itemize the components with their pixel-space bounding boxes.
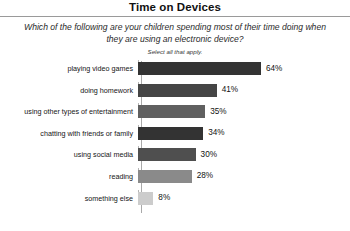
bar-track: 30% <box>138 147 350 162</box>
bar <box>138 127 203 140</box>
bar-row: using social media30% <box>0 147 350 162</box>
chart-question: Which of the following are your children… <box>22 22 328 45</box>
bar-track: 28% <box>138 169 350 184</box>
bar <box>138 62 261 75</box>
bar <box>138 192 153 205</box>
bar-rows: playing video games64%doing homework41%u… <box>0 61 350 206</box>
axis-tick <box>138 60 139 62</box>
bar-value-label: 28% <box>197 171 213 181</box>
bar-track: 35% <box>138 104 350 119</box>
bar-value-label: 35% <box>210 107 226 117</box>
bar-row: doing homework41% <box>0 83 350 98</box>
bar-value-label: 34% <box>208 128 224 138</box>
bar <box>138 84 217 97</box>
axis-tick <box>138 168 139 170</box>
subtitle-block: Which of the following are your children… <box>0 17 350 56</box>
plot-area: playing video games64%doing homework41%u… <box>0 61 350 213</box>
bar-track: 64% <box>138 61 350 76</box>
bar-category-label: doing homework <box>0 86 138 95</box>
page-title: Time on Devices <box>0 0 350 14</box>
bar <box>138 148 196 161</box>
bar-value-label: 41% <box>222 85 238 95</box>
bar-value-label: 30% <box>201 150 217 160</box>
bar-category-label: reading <box>0 172 138 181</box>
bar-track: 34% <box>138 126 350 141</box>
bar-value-label: 8% <box>158 193 170 203</box>
bar-row: reading28% <box>0 169 350 184</box>
bar <box>138 170 192 183</box>
chart-card: Time on Devices Which of the following a… <box>0 0 350 231</box>
bar-track: 41% <box>138 83 350 98</box>
axis-tick <box>138 125 139 127</box>
bar-category-label: chatting with friends or family <box>0 129 138 138</box>
bar-row: playing video games64% <box>0 61 350 76</box>
bar-category-label: something else <box>0 194 138 203</box>
axis-tick <box>138 82 139 84</box>
bar-category-label: playing video games <box>0 64 138 73</box>
bar-row: using other types of entertainment35% <box>0 104 350 119</box>
bar-category-label: using social media <box>0 150 138 159</box>
chart-instruction: Select all that apply. <box>22 48 328 56</box>
bar <box>138 105 205 118</box>
axis-tick <box>138 103 139 105</box>
bar-category-label: using other types of entertainment <box>0 107 138 116</box>
bar-track: 8% <box>138 191 350 206</box>
bar-row: something else8% <box>0 191 350 206</box>
bar-row: chatting with friends or family34% <box>0 126 350 141</box>
axis-tick <box>138 146 139 148</box>
axis-tick <box>138 190 139 192</box>
bar-value-label: 64% <box>266 64 282 74</box>
